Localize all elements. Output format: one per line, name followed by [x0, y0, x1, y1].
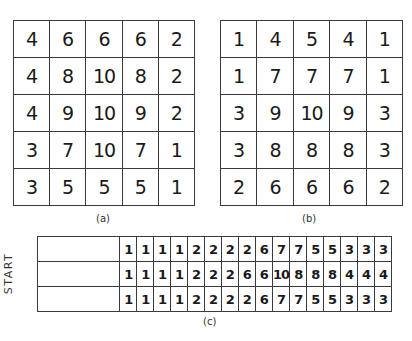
grid-b: 14541177713910933888326662 — [220, 20, 403, 206]
grid-cell: 1 — [154, 287, 171, 312]
grid-cell: 5 — [86, 169, 123, 206]
grid-cell: 6 — [255, 237, 272, 262]
grid-row: 1111222267755333 — [38, 237, 392, 262]
caption-c: (c) — [203, 316, 216, 327]
row-label-cell — [38, 287, 120, 312]
grid-cell: 4 — [14, 21, 50, 58]
grid-cell: 6 — [50, 21, 86, 58]
grid-cell: 5 — [122, 169, 158, 206]
grid-row: 17771 — [221, 58, 403, 95]
sequence-strip: 1111222267755333111122266108884441111222… — [37, 236, 392, 312]
grid-cell: 9 — [122, 95, 158, 132]
start-label: START — [2, 249, 15, 299]
grid-cell: 1 — [154, 262, 171, 287]
grid-cell: 6 — [122, 21, 158, 58]
grid-cell: 8 — [330, 132, 366, 169]
grid-cell: 5 — [50, 169, 86, 206]
grid-cell: 10 — [86, 58, 123, 95]
grid-cell: 8 — [290, 262, 307, 287]
row-label-cell — [38, 237, 120, 262]
grid-cell: 8 — [293, 132, 330, 169]
grid-row: 35551 — [14, 169, 195, 206]
grid-cell: 6 — [238, 262, 255, 287]
grid-cell: 7 — [50, 132, 86, 169]
grid-cell: 3 — [341, 237, 358, 262]
grid-cell: 2 — [366, 169, 402, 206]
grid-cell: 2 — [188, 237, 205, 262]
grid-cell: 4 — [341, 262, 358, 287]
grid-cell: 2 — [204, 262, 221, 287]
grid-row: 46662 — [14, 21, 195, 58]
grid-cell: 4 — [14, 95, 50, 132]
grid-cell: 1 — [137, 237, 154, 262]
grid-cell: 3 — [374, 237, 391, 262]
grid-row: 391093 — [221, 95, 403, 132]
grid-cell: 1 — [171, 237, 188, 262]
grid-cell: 1 — [171, 287, 188, 312]
grid-row: 371071 — [14, 132, 195, 169]
grid-cell: 7 — [330, 58, 366, 95]
grid-cell: 3 — [366, 132, 402, 169]
grid-cell: 4 — [14, 58, 50, 95]
grid-cell: 8 — [324, 262, 341, 287]
grid-cell: 7 — [257, 58, 293, 95]
grid-cell: 2 — [188, 262, 205, 287]
grid-cell: 1 — [120, 237, 137, 262]
grid-cell: 6 — [255, 262, 272, 287]
caption-a: (a) — [96, 213, 110, 224]
grid-cell: 1 — [137, 287, 154, 312]
grid-cell: 3 — [366, 95, 402, 132]
grid-cell: 1 — [158, 169, 194, 206]
grid-cell: 1 — [171, 262, 188, 287]
grid-cell: 3 — [221, 132, 257, 169]
grid-cell: 2 — [204, 237, 221, 262]
grid-row: 11112226610888444 — [38, 262, 392, 287]
grid-row: 491092 — [14, 95, 195, 132]
grid-cell: 3 — [358, 237, 375, 262]
grid-cell: 2 — [158, 21, 194, 58]
caption-b: (b) — [302, 213, 316, 224]
grid-cell: 5 — [324, 287, 341, 312]
grid-cell: 5 — [307, 287, 324, 312]
grid-cell: 6 — [330, 169, 366, 206]
grid-cell: 6 — [255, 287, 272, 312]
grid-cell: 3 — [221, 95, 257, 132]
grid-cell: 1 — [154, 237, 171, 262]
grid-cell: 7 — [272, 287, 290, 312]
grid-cell: 6 — [257, 169, 293, 206]
grid-cell: 3 — [14, 132, 50, 169]
grid-cell: 2 — [238, 287, 255, 312]
grid-cell: 10 — [272, 262, 290, 287]
grid-cell: 9 — [50, 95, 86, 132]
grid-cell: 10 — [293, 95, 330, 132]
grid-cell: 9 — [257, 95, 293, 132]
grid-row: 38883 — [221, 132, 403, 169]
grid-cell: 4 — [374, 262, 391, 287]
grid-cell: 4 — [257, 21, 293, 58]
grid-cell: 3 — [358, 287, 375, 312]
grid-cell: 1 — [158, 132, 194, 169]
grid-a: 4666248108249109237107135551 — [13, 20, 195, 206]
grid-cell: 7 — [293, 58, 330, 95]
grid-cell: 1 — [221, 58, 257, 95]
grid-cell: 4 — [330, 21, 366, 58]
grid-cell: 8 — [307, 262, 324, 287]
grid-cell: 3 — [341, 287, 358, 312]
grid-cell: 2 — [204, 287, 221, 312]
grid-cell: 8 — [122, 58, 158, 95]
grid-row: 481082 — [14, 58, 195, 95]
grid-row: 26662 — [221, 169, 403, 206]
grid-cell: 2 — [158, 58, 194, 95]
grid-cell: 9 — [330, 95, 366, 132]
grid-cell: 7 — [122, 132, 158, 169]
grid-cell: 8 — [257, 132, 293, 169]
grid-row: 14541 — [221, 21, 403, 58]
grid-cell: 3 — [374, 287, 391, 312]
grid-cell: 6 — [293, 169, 330, 206]
grid-cell: 2 — [221, 169, 257, 206]
grid-cell: 10 — [86, 132, 123, 169]
grid-cell: 8 — [50, 58, 86, 95]
row-label-cell — [38, 262, 120, 287]
grid-cell: 7 — [290, 287, 307, 312]
grid-cell: 6 — [86, 21, 123, 58]
